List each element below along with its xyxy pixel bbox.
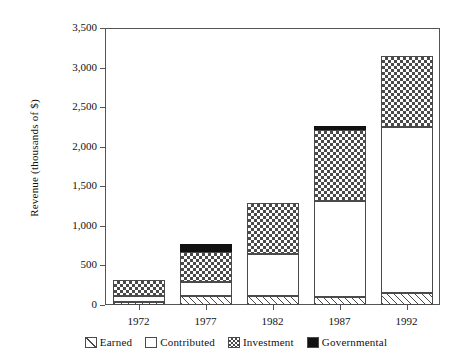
x-axis-tick-label: 1987 <box>310 315 370 327</box>
bar-segment-investment-1982 <box>247 203 299 254</box>
y-axis-tick-mark <box>100 226 105 227</box>
legend-swatch-investment-icon <box>228 337 240 348</box>
bar-1987 <box>314 126 366 305</box>
legend-item-investment[interactable]: Investment <box>228 336 294 348</box>
x-axis-tick-mark <box>206 305 207 310</box>
bar-segment-contributed-1987 <box>314 201 366 297</box>
legend-label: Contributed <box>160 336 215 348</box>
y-axis-tick-label: 1,000 <box>43 220 97 231</box>
legend-swatch-governmental-icon <box>307 337 319 348</box>
bar-segment-investment-1987 <box>314 130 366 201</box>
y-axis-tick-mark <box>100 68 105 69</box>
bar-segment-investment-1992 <box>381 56 433 127</box>
bar-segment-governmental-1977 <box>180 244 232 252</box>
legend-swatch-earned-icon <box>85 337 97 348</box>
bar-1992 <box>381 56 433 305</box>
legend-item-governmental[interactable]: Governmental <box>307 336 387 348</box>
x-axis-tick-label: 1992 <box>377 315 437 327</box>
y-axis-tick-mark <box>100 107 105 108</box>
y-axis-tick-label: 3,000 <box>43 62 97 73</box>
y-axis-tick-label: 2,500 <box>43 101 97 112</box>
y-axis-tick-mark <box>100 186 105 187</box>
bar-segment-contributed-1992 <box>381 127 433 293</box>
bar-segment-contributed-1977 <box>180 282 232 295</box>
bar-segment-contributed-1972 <box>113 296 165 302</box>
legend-label: Investment <box>243 336 294 348</box>
bar-segment-investment-1972 <box>113 280 165 296</box>
legend-item-contributed[interactable]: Contributed <box>145 336 215 348</box>
bar-segment-earned-1972 <box>113 302 165 305</box>
x-axis-tick-label: 1982 <box>243 315 303 327</box>
bar-segment-contributed-1982 <box>247 254 299 297</box>
x-axis-tick-mark <box>139 305 140 310</box>
y-axis-tick-mark <box>100 28 105 29</box>
chart-legend: EarnedContributedInvestmentGovernmental <box>0 336 472 348</box>
legend-swatch-contributed-icon <box>145 337 157 348</box>
x-axis-tick-label: 1972 <box>109 315 169 327</box>
bar-segment-earned-1977 <box>180 296 232 305</box>
bar-1982 <box>247 203 299 305</box>
bar-segment-governmental-1987 <box>314 126 366 130</box>
y-axis-tick-label: 0 <box>43 299 97 310</box>
y-axis-tick-label: 3,500 <box>43 22 97 33</box>
x-axis-tick-label: 1977 <box>176 315 236 327</box>
legend-label: Earned <box>100 336 132 348</box>
x-axis-tick-mark <box>407 305 408 310</box>
y-axis-title: Revenue (thousands of $) <box>28 38 40 278</box>
bar-segment-earned-1987 <box>314 297 366 305</box>
legend-label: Governmental <box>322 336 387 348</box>
x-axis-tick-mark <box>340 305 341 310</box>
y-axis-tick-mark <box>100 147 105 148</box>
revenue-stacked-bar-chart: Revenue (thousands of $) 05001,0001,5002… <box>0 0 472 362</box>
y-axis-tick-label: 1,500 <box>43 180 97 191</box>
y-axis-tick-label: 500 <box>43 259 97 270</box>
bar-segment-earned-1982 <box>247 296 299 305</box>
y-axis-tick-mark <box>100 305 105 306</box>
bar-1977 <box>180 244 232 305</box>
y-axis-tick-mark <box>100 265 105 266</box>
bar-1972 <box>113 280 165 305</box>
legend-item-earned[interactable]: Earned <box>85 336 132 348</box>
x-axis-tick-mark <box>273 305 274 310</box>
bar-segment-earned-1992 <box>381 293 433 305</box>
bar-segment-investment-1977 <box>180 252 232 282</box>
y-axis-tick-label: 2,000 <box>43 141 97 152</box>
